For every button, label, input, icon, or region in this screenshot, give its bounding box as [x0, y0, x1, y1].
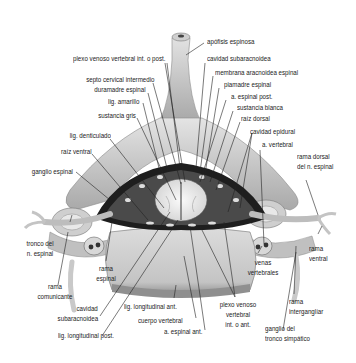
label-a-espinal-post: a. espinal post.: [231, 92, 273, 101]
anatomy-figure: apófisis espinosa plexo venoso vertebral…: [0, 0, 356, 363]
label-piamadre: piamadre espinal: [224, 80, 271, 89]
label-cavidad-subaracnoidea-top: cavidad subaracnoidea: [207, 54, 271, 63]
label-ganglio-simp-1: ganglio del: [265, 324, 295, 333]
label-plexo-ant-1: plexo venoso: [216, 300, 261, 309]
label-cavidad-epidural: cavidad epidural: [250, 127, 295, 136]
label-rama-dorsal-2: del n. espinal: [297, 162, 333, 171]
label-septo-cervical: septo cervical intermedio: [86, 75, 154, 84]
label-apofisis-espinosa: apófisis espinosa: [207, 37, 254, 46]
label-sustancia-blanca: sustancia blanca: [237, 103, 283, 112]
label-rama-ventral-1: rama: [309, 244, 323, 253]
label-rama-comunicante-2: comunicante: [34, 292, 77, 301]
label-ganglio-espinal: ganglio espinal: [32, 167, 73, 176]
label-rama-espinal-2: espinal: [89, 274, 123, 283]
label-a-espinal-ant: a. espinal ant.: [164, 327, 202, 336]
label-rama-interg-1: rama: [289, 297, 303, 306]
label-tronco-2: n. espinal: [21, 249, 59, 258]
label-lig-long-ant: lig. longitudinal ant.: [124, 302, 177, 311]
label-a-vertebral: a. vertebral: [262, 140, 293, 149]
label-venas-2: vertebrales: [248, 268, 279, 277]
label-plexo-ant-3: int. o ant.: [216, 320, 261, 329]
spinous-process: [160, 35, 200, 120]
label-tronco-1: tronco del: [21, 239, 59, 248]
label-plexo-venoso-post: plexo venoso vertebral int. o post.: [73, 54, 165, 63]
label-rama-comunicante-1: rama: [34, 282, 77, 291]
label-raiz-ventral: raíz ventral: [61, 147, 92, 156]
label-duramadre: duramadre espinal: [95, 85, 146, 94]
label-lig-denticulado: lig. denticulado: [70, 131, 111, 140]
label-rama-espinal-1: rama: [89, 264, 123, 273]
label-cavidad-sub-1: cavidad: [77, 304, 98, 313]
label-lig-long-post: lig. longitudinal post.: [58, 331, 114, 340]
label-membrana-aracnoidea: membrana aracnoidea espinal: [215, 68, 298, 77]
label-cavidad-sub-2: subaracnoidea: [57, 314, 98, 323]
label-ganglio-simp-2: tronco simpático: [265, 334, 310, 343]
label-cuerpo-vertebral: cuerpo vertebral: [138, 316, 183, 325]
label-rama-dorsal-1: rama dorsal: [297, 152, 330, 161]
label-rama-interg-2: interganglíar: [289, 307, 323, 316]
label-raiz-dorsal: raíz dorsal: [241, 114, 270, 123]
label-lig-amarillo: lig. amarillo: [108, 97, 139, 106]
label-plexo-ant-2: vertebral: [216, 310, 261, 319]
label-rama-ventral-2: ventral: [309, 254, 328, 263]
label-venas-1: venas: [248, 258, 279, 267]
label-sustancia-gris: sustancia gris: [98, 111, 136, 120]
